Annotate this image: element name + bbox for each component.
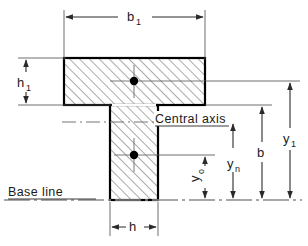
dimension-y0: y o	[187, 157, 216, 198]
dim-y0-label-sub: o	[196, 169, 206, 174]
dim-h1-label-sub: 1	[26, 83, 31, 93]
dimension-y1: y 1	[281, 83, 303, 198]
central-axis-label: Central axis	[155, 112, 226, 126]
dim-h1-label: h	[17, 75, 24, 90]
web-centroid-dot	[130, 151, 138, 159]
dim-yn-label-sub: n	[235, 164, 240, 174]
base-line-label: Base line	[8, 185, 63, 199]
dim-y1-label-sub: 1	[291, 139, 296, 149]
dimension-h: h	[112, 216, 156, 236]
dimension-b1: b 1	[66, 6, 203, 27]
dimension-b: b	[254, 107, 270, 198]
dim-b1-label-sub: 1	[136, 17, 141, 27]
diagram-canvas: b 1 h 1 h y o y n	[0, 0, 308, 246]
flange-centroid-dot	[130, 77, 138, 85]
dimension-yn: y n	[224, 124, 244, 198]
dim-y0-label: y	[187, 175, 202, 182]
dim-yn-label: y	[227, 156, 234, 171]
dim-y1-label: y	[283, 131, 290, 146]
dim-b1-label: b	[127, 9, 134, 24]
dim-b-label: b	[257, 145, 264, 160]
t-beam-diagram: b 1 h 1 h y o y n	[0, 0, 308, 246]
base-line-annotation: Base line	[6, 183, 98, 199]
dim-h-label: h	[129, 219, 136, 234]
central-axis-annotation: Central axis	[154, 111, 232, 126]
dimension-h1: h 1	[14, 60, 40, 103]
